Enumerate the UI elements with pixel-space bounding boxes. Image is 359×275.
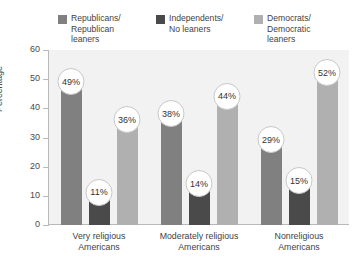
bar-value-bubble: 14% — [186, 170, 213, 197]
bar-value-bubble: 49% — [58, 68, 85, 95]
bar-value-bubble: 11% — [86, 179, 113, 206]
bar-value-bubble: 38% — [158, 100, 185, 127]
bar-slot: 15% — [289, 50, 310, 225]
bar-value-bubble: 36% — [114, 106, 141, 133]
bar-value-bubble: 15% — [286, 167, 313, 194]
category-label: Very religious Americans — [49, 231, 149, 253]
bar[interactable]: 11% — [89, 193, 110, 225]
category-label: Moderately religious Americans — [149, 231, 249, 253]
y-tick-label: 10 — [30, 190, 40, 200]
y-tick-label: 20 — [30, 161, 40, 171]
x-axis-categories: Very religious AmericansModerately relig… — [49, 231, 349, 253]
bar[interactable]: 14% — [189, 184, 210, 225]
legend-swatch-independents — [156, 15, 165, 24]
y-tick-label: 40 — [30, 102, 40, 112]
bar-slot: 38% — [161, 50, 182, 225]
bar-slot: 49% — [61, 50, 82, 225]
legend-label-independents: Independents/ No leaners — [169, 13, 223, 34]
bar-chart: Republicans/ Republican leaners Independ… — [0, 0, 359, 275]
bar-value-bubble: 52% — [314, 59, 341, 86]
legend-swatch-republicans — [58, 15, 67, 24]
bar[interactable]: 29% — [261, 140, 282, 225]
bar[interactable]: 49% — [61, 82, 82, 225]
y-tick-label: 60 — [30, 44, 40, 54]
chart-legend: Republicans/ Republican leaners Independ… — [58, 13, 354, 45]
y-axis-title: Percentage — [0, 66, 4, 112]
bar-value-bubble: 44% — [214, 83, 241, 110]
y-tick-label: 0 — [35, 219, 40, 229]
legend-item-democrats: Democrats/ Democratic leaners — [254, 13, 352, 45]
bar-group: 29%15%52% — [249, 50, 349, 225]
bar[interactable]: 44% — [217, 97, 238, 225]
bar-value-bubble: 29% — [258, 126, 285, 153]
legend-swatch-democrats — [254, 15, 263, 24]
y-tick-mark — [43, 225, 49, 226]
legend-label-democrats: Democrats/ Democratic leaners — [267, 13, 311, 45]
bar-slot: 44% — [217, 50, 238, 225]
legend-item-republicans: Republicans/ Republican leaners — [58, 13, 156, 45]
category-label: Nonreligious Americans — [249, 231, 349, 253]
bar[interactable]: 52% — [317, 73, 338, 225]
legend-item-independents: Independents/ No leaners — [156, 13, 254, 34]
bar-slot: 29% — [261, 50, 282, 225]
bar-group: 49%11%36% — [49, 50, 149, 225]
bar[interactable]: 15% — [289, 181, 310, 225]
bar-slot: 52% — [317, 50, 338, 225]
bar[interactable]: 36% — [117, 120, 138, 225]
bar-slot: 36% — [117, 50, 138, 225]
y-tick-label: 50 — [30, 73, 40, 83]
bar-group: 38%14%44% — [149, 50, 249, 225]
bar-slot: 11% — [89, 50, 110, 225]
bar-groups: 49%11%36%38%14%44%29%15%52% — [49, 50, 349, 225]
y-tick: 0 — [43, 225, 49, 226]
bar[interactable]: 38% — [161, 114, 182, 225]
legend-label-republicans: Republicans/ Republican leaners — [71, 13, 121, 45]
bar-slot: 14% — [189, 50, 210, 225]
y-tick-label: 30 — [30, 132, 40, 142]
